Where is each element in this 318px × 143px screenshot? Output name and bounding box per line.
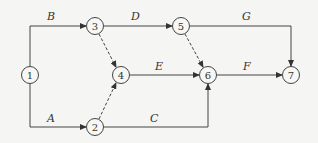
node-7: 7 — [283, 67, 300, 84]
edge-dummy-2-4 — [99, 83, 116, 119]
node-2: 2 — [87, 119, 104, 136]
edge-dummy-5-6 — [185, 34, 203, 67]
node-4: 4 — [113, 67, 130, 84]
node-6: 6 — [200, 67, 217, 84]
edge-label-G: G — [242, 10, 251, 23]
edge-G — [190, 26, 291, 66]
node-3: 3 — [87, 18, 104, 35]
node-5: 5 — [173, 18, 190, 35]
svg-text:3: 3 — [92, 21, 98, 32]
svg-text:6: 6 — [205, 70, 211, 81]
edge-label-B: B — [46, 10, 55, 23]
diagram-svg: B A D E C G F 1 2 3 4 5 6 7 — [0, 0, 318, 143]
edge-label-E: E — [154, 60, 163, 73]
edge-label-A: A — [46, 112, 55, 125]
svg-text:4: 4 — [118, 70, 124, 81]
svg-text:1: 1 — [27, 70, 33, 81]
edge-label-D: D — [130, 10, 140, 23]
svg-text:2: 2 — [92, 122, 98, 133]
edge-A — [30, 83, 86, 127]
edge-B — [30, 26, 86, 67]
svg-text:5: 5 — [178, 21, 184, 32]
svg-text:7: 7 — [288, 70, 294, 81]
edge-dummy-3-4 — [99, 34, 116, 67]
edge-label-F: F — [242, 60, 251, 73]
node-1: 1 — [22, 67, 39, 84]
edge-label-C: C — [150, 112, 159, 125]
network-diagram: B A D E C G F 1 2 3 4 5 6 7 — [0, 0, 318, 143]
